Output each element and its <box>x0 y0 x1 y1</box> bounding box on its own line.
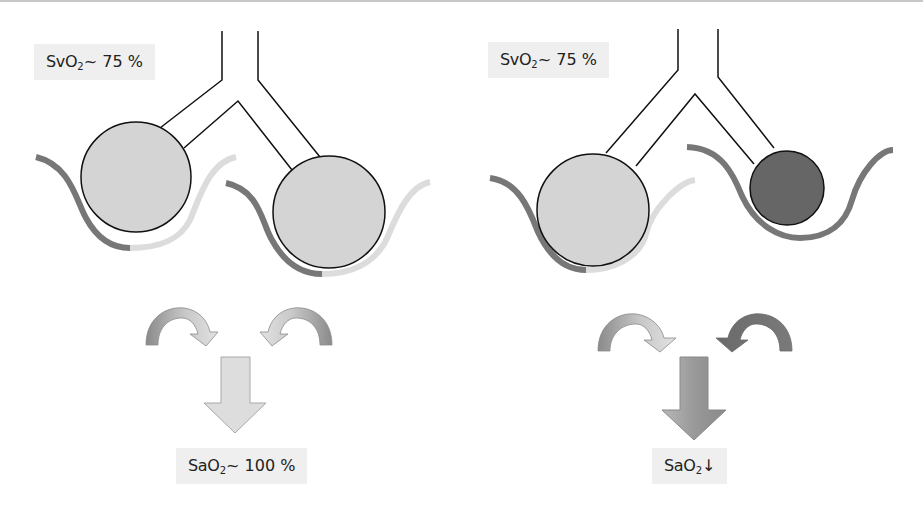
right-panel-left-curved-arrow <box>598 314 676 352</box>
right-panel-right-alveolus-shunt <box>750 151 824 225</box>
left-panel-down-arrow <box>204 357 266 433</box>
right-panel-left-alveolus <box>537 154 649 266</box>
left-panel-left-curved-arrow <box>146 308 218 346</box>
left-panel-right-curved-arrow <box>260 308 332 346</box>
left-panel <box>36 31 430 433</box>
right-panel-right-curved-arrow <box>716 314 792 352</box>
vq-diagram <box>0 0 923 505</box>
left-panel-left-alveolus <box>81 122 191 232</box>
left-panel-right-alveolus <box>273 156 385 268</box>
right-panel-down-arrow <box>662 357 726 440</box>
right-panel <box>490 29 893 440</box>
